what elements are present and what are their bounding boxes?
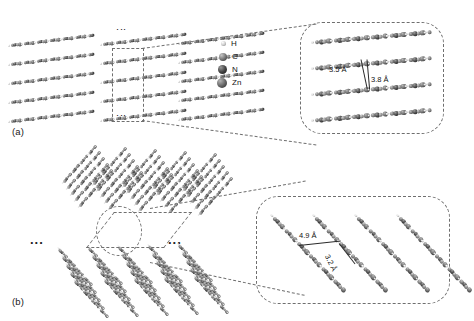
panel-b-selection-ellipse <box>96 206 142 256</box>
atom-sphere <box>424 109 427 112</box>
molecular-chain <box>178 106 264 123</box>
atom-sphere <box>182 89 186 93</box>
legend-label-zinc: Zn <box>232 78 241 87</box>
atom-sphere <box>311 67 314 70</box>
atom-sphere <box>182 51 186 55</box>
atom-sphere <box>226 312 229 315</box>
atom-sphere <box>311 119 314 122</box>
legend-label-carbon: C <box>232 52 238 61</box>
atom-sphere <box>136 315 139 318</box>
molecular-chain <box>394 212 471 292</box>
panel-a-ellipsis-top: ⋮ <box>119 24 123 38</box>
atom-sphere <box>340 286 348 294</box>
atom-sphere <box>348 64 351 67</box>
panel-b-ellipsis-left: ... <box>30 232 44 247</box>
atom-sphere <box>196 313 199 316</box>
atom-sphere <box>106 316 109 319</box>
molecular-chain <box>311 29 431 46</box>
atom-sphere <box>166 314 169 317</box>
legend-label-nitrogen: N <box>232 65 238 74</box>
atom-sphere <box>90 71 94 75</box>
atom-sphere <box>182 70 186 74</box>
panel-a-dim-label-1: 3.5 Å <box>329 65 347 74</box>
molecular-chain <box>268 212 345 292</box>
atom-sphere <box>367 36 370 39</box>
atom-sphere <box>427 30 432 35</box>
atom-legend: H C N Zn <box>218 37 241 89</box>
panel-a-connector-bottom <box>142 120 316 145</box>
molecular-chain <box>8 32 94 49</box>
panel-a-label: (a) <box>12 126 24 137</box>
molecular-chain <box>8 70 94 87</box>
atom-sphere <box>260 88 264 92</box>
panel-b-dim-label-1: 4.9 Å <box>299 231 317 240</box>
molecular-chain <box>311 107 431 124</box>
atom-sphere <box>330 91 333 94</box>
molecular-chain <box>8 108 94 125</box>
atom-sphere <box>427 56 432 61</box>
atom-sphere <box>424 286 432 294</box>
atom-sphere <box>424 83 427 86</box>
atom-sphere <box>330 39 333 42</box>
molecular-chain <box>310 212 387 292</box>
atom-sphere <box>427 108 432 113</box>
atom-sphere <box>182 32 186 36</box>
panel-a-inset-box: 3.5 Å 3.8 Å <box>300 22 444 134</box>
atom-sphere <box>427 82 432 87</box>
atom-sphere <box>182 108 186 112</box>
legend-item-zinc: Zn <box>218 76 241 89</box>
molecular-chain <box>100 31 186 48</box>
atom-sphere <box>348 90 351 93</box>
legend-item-carbon: C <box>218 50 241 63</box>
atom-sphere <box>311 93 314 96</box>
atom-sphere <box>424 57 427 60</box>
atom-sphere <box>90 109 94 113</box>
atom-sphere <box>405 85 408 88</box>
atom-sphere <box>386 86 389 89</box>
atom-sphere <box>405 59 408 62</box>
legend-item-hydrogen: H <box>218 37 241 50</box>
atom-sphere <box>260 107 264 111</box>
atom-sphere <box>386 60 389 63</box>
molecular-chain <box>352 212 429 292</box>
atom-sphere <box>348 116 351 119</box>
panel-b-dim-line-1 <box>299 241 341 247</box>
atom-sphere <box>90 90 94 94</box>
panel-b-label: (b) <box>12 296 24 307</box>
legend-item-nitrogen: N <box>218 63 241 76</box>
atom-sphere <box>260 69 264 73</box>
zinc-sphere-icon <box>217 78 227 88</box>
legend-label-hydrogen: H <box>231 39 237 48</box>
atom-sphere <box>330 117 333 120</box>
atom-sphere <box>90 33 94 37</box>
molecular-chain <box>8 51 94 68</box>
atom-sphere <box>405 33 408 36</box>
atom-sphere <box>466 286 474 294</box>
atom-sphere <box>386 34 389 37</box>
atom-sphere <box>260 50 264 54</box>
atom-sphere <box>386 112 389 115</box>
atom-sphere <box>405 111 408 114</box>
molecular-chain <box>178 87 264 104</box>
nitrogen-sphere-icon <box>218 65 227 74</box>
panel-b-inset-box: 4.9 Å 3.2 Å <box>256 196 450 304</box>
atom-sphere <box>90 52 94 56</box>
atom-sphere <box>311 41 314 44</box>
hydrogen-sphere-icon <box>221 41 226 46</box>
atom-sphere <box>424 31 427 34</box>
atom-sphere <box>382 286 390 294</box>
carbon-sphere-icon <box>219 53 227 61</box>
molecular-chain <box>8 89 94 106</box>
atom-sphere <box>348 38 351 41</box>
panel-a-selection-box <box>112 48 144 122</box>
atom-sphere <box>367 114 370 117</box>
panel-a-dim-label-2: 3.8 Å <box>371 75 389 84</box>
